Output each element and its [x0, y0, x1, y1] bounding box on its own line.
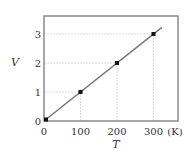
data-point-marker [79, 90, 83, 94]
chart: 0123 0100200300 V T (K) [0, 0, 191, 164]
y-tick-label: 1 [35, 87, 41, 98]
y-tick-label: 2 [35, 58, 41, 69]
data-point-marker [44, 118, 48, 122]
x-axis-label: T [112, 138, 121, 151]
x-tick-label: 0 [41, 126, 47, 137]
x-tick-label: 200 [107, 126, 126, 137]
x-tick-label: 300 [144, 126, 163, 137]
x-axis-ticks: 0100200300 [41, 126, 163, 137]
data-point-marker [152, 32, 156, 36]
y-axis-label: V [11, 56, 20, 69]
x-tick-label: 100 [71, 126, 90, 137]
y-axis-ticks: 0123 [35, 29, 41, 127]
data-point-marker [115, 61, 119, 65]
y-tick-label: 3 [35, 29, 41, 40]
fit-line [44, 27, 162, 121]
y-tick-label: 0 [35, 116, 41, 127]
x-axis-unit: (K) [167, 126, 182, 137]
